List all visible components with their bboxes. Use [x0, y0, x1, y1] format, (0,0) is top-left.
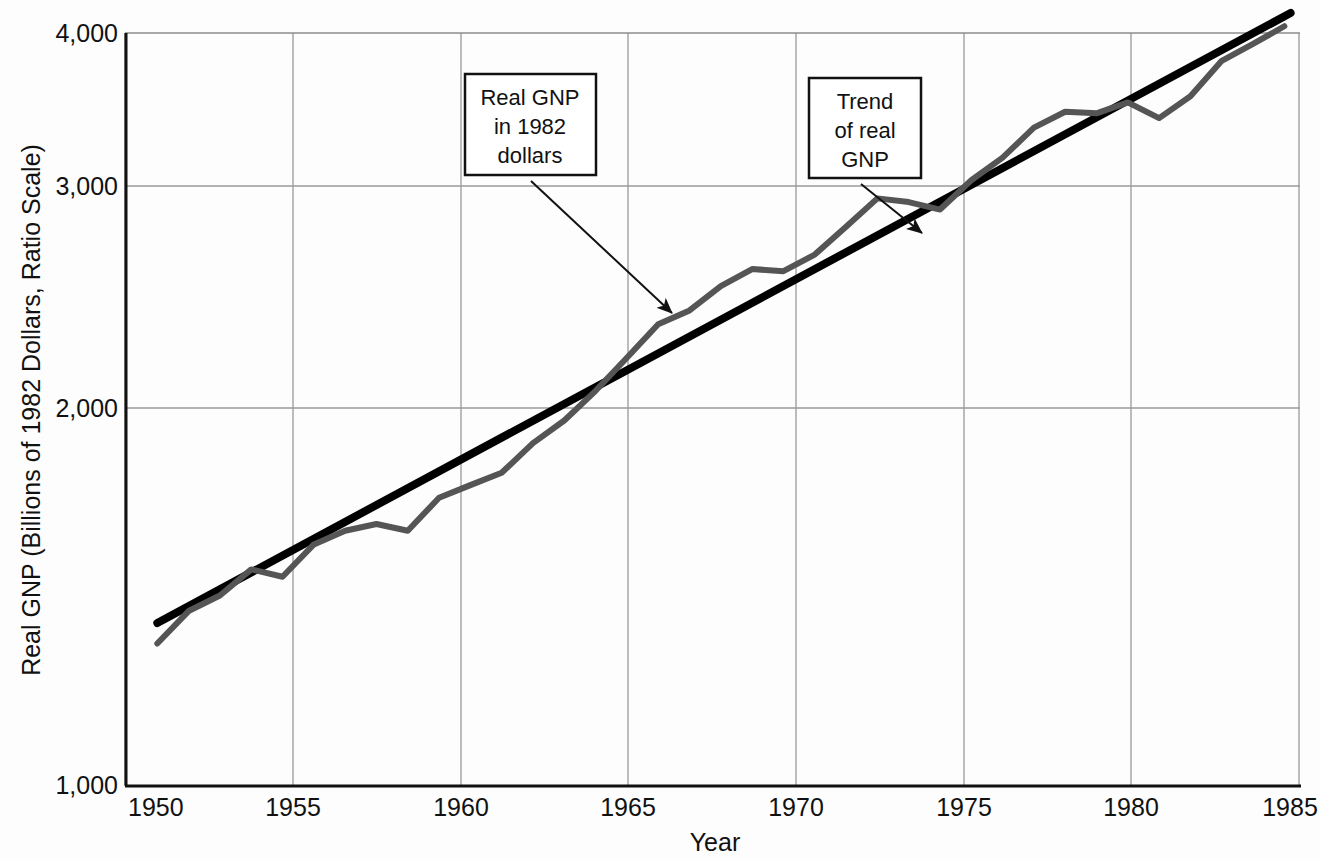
annotation-trend-line-2: of real [834, 118, 895, 143]
annotation-real-gnp-line-1: Real GNP [480, 85, 579, 110]
y-tick-label-4000: 4,000 [55, 19, 118, 47]
y-tick-label-2000: 2,000 [55, 394, 118, 422]
annotation-real-gnp-line-3: dollars [498, 143, 563, 168]
annotation-trend-line-3: GNP [841, 147, 889, 172]
x-tick-label-1960: 1960 [433, 793, 489, 821]
x-tick-label-1980: 1980 [1103, 793, 1159, 821]
chart-background [0, 0, 1320, 860]
x-tick-label-1985: 1985 [1262, 793, 1318, 821]
x-tick-label-1950: 1950 [128, 793, 184, 821]
x-axis-title: Year [690, 828, 741, 856]
y-tick-label-3000: 3,000 [55, 172, 118, 200]
x-tick-label-1970: 1970 [768, 793, 824, 821]
annotation-trend-line-1: Trend [837, 89, 894, 114]
chart-page: 4,000 3,000 2,000 1,000 1950 1955 1960 1… [0, 0, 1320, 860]
x-tick-label-1965: 1965 [600, 793, 656, 821]
x-tick-label-1975: 1975 [936, 793, 992, 821]
annotation-real-gnp-line-2: in 1982 [494, 114, 566, 139]
y-axis-title: Real GNP (Billions of 1982 Dollars, Rati… [17, 144, 45, 676]
x-tick-label-1955: 1955 [265, 793, 321, 821]
real-gnp-line-chart: 4,000 3,000 2,000 1,000 1950 1955 1960 1… [0, 0, 1320, 860]
y-tick-label-1000: 1,000 [55, 771, 118, 799]
